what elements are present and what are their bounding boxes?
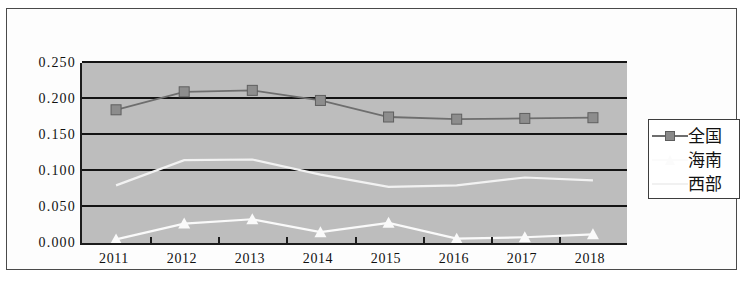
- x-axis-tickmark: [355, 237, 357, 244]
- x-axis-tick-label: 2011: [99, 252, 129, 266]
- x-axis-tick-label: 2016: [439, 252, 469, 266]
- legend-item-national[interactable]: 全国: [649, 124, 739, 148]
- legend-label: 全国: [688, 128, 722, 145]
- y-axis: 0.250 0.200 0.150 0.100 0.050 0.000: [0, 0, 76, 292]
- data-point-marker: [452, 114, 462, 124]
- x-axis-tickmark: [559, 237, 561, 244]
- data-point-marker: [179, 87, 189, 97]
- x-axis-tick-label: 2017: [507, 252, 537, 266]
- data-point-marker: [315, 95, 325, 105]
- x-axis-tick-label: 2018: [575, 252, 605, 266]
- x-axis-tick-label: 2012: [167, 252, 197, 266]
- legend-label: 海南: [688, 152, 722, 169]
- x-axis-tick-label: 2013: [235, 252, 265, 266]
- legend: 全国 海南 西部: [648, 119, 740, 199]
- legend-item-hainan[interactable]: 海南: [649, 148, 739, 172]
- plot-area: [80, 63, 627, 245]
- legend-item-western[interactable]: 西部: [649, 172, 739, 196]
- series-1: [111, 85, 598, 124]
- series-3: [116, 159, 593, 186]
- x-axis-tickmark: [491, 237, 493, 244]
- x-axis-tickmark: [218, 237, 220, 244]
- x-axis-tickmark: [423, 237, 425, 244]
- y-axis-tick-label: 0.100: [4, 164, 76, 178]
- legend-marker-square-icon: [652, 129, 688, 143]
- legend-marker-line-icon: [652, 177, 688, 191]
- x-axis: 2011 2012 2013 2014 2015 2016 2017 2018: [80, 252, 625, 274]
- series-layer: [82, 63, 627, 243]
- data-point-marker: [384, 112, 394, 122]
- y-axis-tick-label: 0.050: [4, 200, 76, 214]
- x-axis-tickmark: [286, 237, 288, 244]
- x-axis-tick-label: 2015: [371, 252, 401, 266]
- x-axis-tick-label: 2014: [303, 252, 333, 266]
- data-point-marker: [588, 113, 598, 123]
- data-point-marker: [520, 113, 530, 123]
- line-chart: 0.250 0.200 0.150 0.100 0.050 0.000 2011…: [0, 0, 744, 292]
- x-axis-tickmark: [150, 237, 152, 244]
- series-line: [116, 159, 593, 186]
- y-axis-tick-label: 0.200: [4, 92, 76, 106]
- y-axis-tick-label: 0.250: [4, 56, 76, 70]
- legend-label: 西部: [688, 176, 722, 193]
- data-point-marker: [111, 105, 121, 115]
- y-axis-tick-label: 0.000: [4, 236, 76, 250]
- y-axis-tick-label: 0.150: [4, 128, 76, 142]
- legend-marker-triangle-icon: [652, 153, 688, 167]
- data-point-marker: [247, 85, 257, 95]
